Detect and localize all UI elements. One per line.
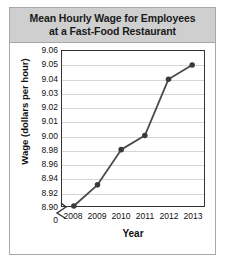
y-axis-tick-label: 9.06: [41, 46, 58, 55]
x-axis-tick-label: 2012: [160, 212, 179, 221]
x-axis-tick-label: 2013: [184, 212, 203, 221]
data-point: [142, 133, 148, 139]
y-axis-tick-label: 9.00: [41, 132, 58, 141]
chart-figure: Mean Hourly Wage for Employees at a Fast…: [0, 0, 230, 262]
y-axis-tick-label: 9.01: [41, 117, 58, 126]
chart-title: Mean Hourly Wage for Employees at a Fast…: [26, 12, 200, 38]
data-point: [71, 203, 77, 209]
data-point: [118, 147, 124, 153]
x-axis-tick-label: 2010: [112, 212, 131, 221]
plot-frame: [61, 50, 205, 207]
x-axis-title: Year: [61, 228, 205, 239]
chart-title-line-2: at a Fast-Food Restaurant: [49, 25, 176, 37]
chart-plot-area: Wage (dollars per hour) 9.069.059.049.03…: [10, 44, 215, 255]
y-axis-tick-label: 9.02: [41, 103, 58, 112]
x-axis-tick-label: 2011: [136, 212, 154, 221]
y-axis-tick-label: 9.04: [41, 75, 58, 84]
y-axis-tick-label: 8.92: [41, 189, 58, 198]
x-axis-tick-label: 2008: [64, 212, 83, 221]
y-axis-tick-label: 8.98: [41, 146, 58, 155]
chart-title-bar: Mean Hourly Wage for Employees at a Fast…: [10, 8, 215, 43]
data-series-line: [62, 51, 204, 206]
y-axis-tick-label: 8.94: [41, 174, 58, 183]
data-point: [95, 182, 101, 188]
data-line: [74, 65, 192, 206]
y-axis-tick-label: 8.96: [41, 160, 58, 169]
y-axis-tick-labels: 9.069.059.049.039.029.019.008.988.968.94…: [24, 44, 58, 214]
y-axis-tick-label: 9.03: [41, 89, 58, 98]
data-point: [189, 62, 195, 68]
x-axis-tick-label: 2009: [88, 212, 107, 221]
chart-card: Mean Hourly Wage for Employees at a Fast…: [9, 7, 216, 255]
y-axis-tick-label: 9.05: [41, 60, 58, 69]
x-axis-tick-labels: 200820092010201120122013: [61, 212, 205, 226]
data-point: [166, 76, 172, 82]
chart-title-line-1: Mean Hourly Wage for Employees: [30, 12, 196, 24]
